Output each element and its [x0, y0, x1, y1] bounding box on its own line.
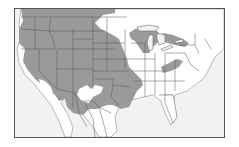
map-canvas	[15, 9, 224, 137]
lake-huron	[157, 33, 165, 45]
range-map	[14, 8, 225, 138]
